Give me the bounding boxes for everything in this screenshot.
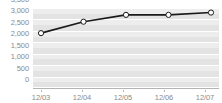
data-point-marker <box>81 19 86 24</box>
x-tick-mark <box>123 90 124 92</box>
x-axis-line <box>33 88 219 89</box>
x-tick-label: 12/07 <box>196 93 214 102</box>
plot-area <box>33 8 219 88</box>
data-point-marker <box>166 12 171 17</box>
y-axis: 3,500 3,000 2,500 2,000 1,500 1,000 500 … <box>0 0 32 103</box>
line-chart-widget: 3,500 3,000 2,500 2,000 1,500 1,000 500 … <box>0 0 222 103</box>
y-tick-label: 1,500 <box>11 42 29 50</box>
x-tick-mark <box>205 90 206 92</box>
y-tick-label: 0 <box>25 76 29 84</box>
x-tick-mark <box>41 90 42 92</box>
data-point-marker <box>123 12 128 17</box>
y-tick-label: 500 <box>17 65 29 73</box>
data-point-marker <box>38 31 43 36</box>
x-tick-mark <box>164 90 165 92</box>
y-tick-label: 2,500 <box>11 19 29 27</box>
data-point-marker <box>208 10 213 15</box>
y-tick-label: 2,000 <box>11 30 29 38</box>
y-tick-label: 3,000 <box>11 7 29 15</box>
x-tick-label: 12/06 <box>155 93 173 102</box>
y-tick-label: 3,500 <box>11 0 29 4</box>
x-axis: 12/03 12/04 12/05 12/06 12/07 <box>33 90 219 103</box>
x-tick-label: 12/04 <box>73 93 91 102</box>
x-tick-mark <box>82 90 83 92</box>
y-tick-label: 1,000 <box>11 53 29 61</box>
x-tick-label: 12/03 <box>32 93 50 102</box>
x-tick-label: 12/05 <box>114 93 132 102</box>
data-series-line <box>33 8 219 88</box>
